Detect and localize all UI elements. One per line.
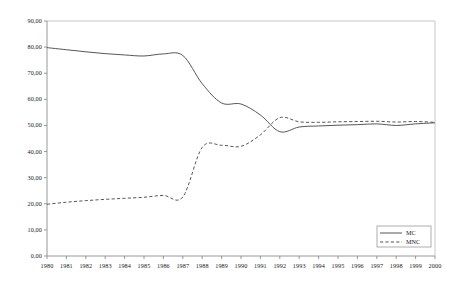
y-axis-tick-label: 70,00: [6, 69, 42, 76]
legend-label-mc: MC: [406, 229, 416, 236]
line-chart-plot: MCMNC: [0, 0, 462, 281]
legend-box: [377, 226, 431, 247]
data-series-layer: [47, 48, 435, 205]
x-axis-tick-label: 2000: [421, 262, 449, 269]
y-axis-tick-label: 80,00: [6, 43, 42, 50]
y-axis-tick-label: 40,00: [6, 148, 42, 155]
plot-frame: [47, 21, 435, 256]
legend-label-mnc: MNC: [406, 238, 420, 245]
x-axis: [47, 256, 435, 259]
series-line-mc: [47, 48, 435, 133]
y-axis: [44, 21, 47, 256]
y-axis-tick-label: 20,00: [6, 200, 42, 207]
chart-legend: MCMNC: [377, 226, 431, 247]
y-axis-tick-label: 50,00: [6, 121, 42, 128]
series-line-mnc: [47, 117, 435, 204]
y-axis-tick-label: 0,00: [6, 252, 42, 259]
y-axis-tick-label: 60,00: [6, 95, 42, 102]
y-axis-tick-label: 30,00: [6, 174, 42, 181]
chart-container: MCMNC 0,0010,0020,0030,0040,0050,0060,00…: [0, 0, 462, 281]
y-axis-tick-label: 90,00: [6, 17, 42, 24]
y-axis-tick-label: 10,00: [6, 226, 42, 233]
